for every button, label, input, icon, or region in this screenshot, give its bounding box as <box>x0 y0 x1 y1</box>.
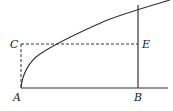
label-a: A <box>13 92 21 103</box>
label-e: E <box>142 39 150 50</box>
label-b: B <box>134 92 142 103</box>
label-c: C <box>10 39 18 50</box>
diagram-canvas <box>0 0 173 111</box>
